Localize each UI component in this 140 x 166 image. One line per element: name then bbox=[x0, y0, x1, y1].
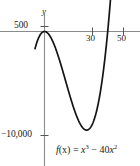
formula-argument: (x) bbox=[59, 144, 71, 155]
function-formula-annotation: f(x) = x3 − 40x2 bbox=[56, 144, 117, 155]
formula-term2-exponent: 2 bbox=[114, 143, 117, 150]
x-tick-label-30: 30 bbox=[86, 33, 95, 43]
function-graph-figure: y 500 −10,000 30 50 f(x) = x3 − 40x2 bbox=[0, 0, 140, 166]
cubic-curve bbox=[35, 0, 115, 130]
formula-coefficient: 40 bbox=[99, 144, 109, 155]
y-tick-label-neg10000: −10,000 bbox=[1, 129, 32, 139]
x-tick-label-50: 50 bbox=[117, 33, 126, 43]
formula-operator: − bbox=[89, 144, 100, 155]
y-axis-label: y bbox=[42, 6, 46, 16]
y-tick-label-500: 500 bbox=[14, 20, 28, 30]
formula-equals: = bbox=[70, 144, 81, 155]
